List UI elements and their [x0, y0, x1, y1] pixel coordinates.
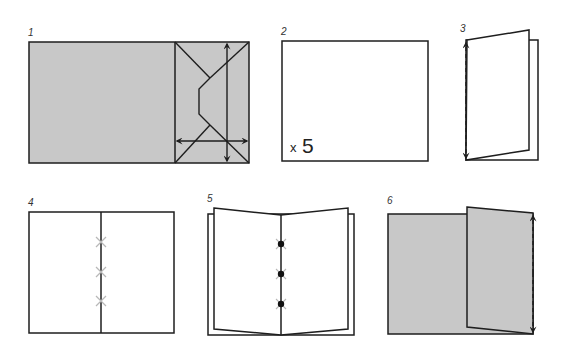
instruction-diagram: 1 2 x 5 3 4: [0, 0, 566, 354]
step-2-label: 2: [280, 26, 287, 37]
step-6-label: 6: [387, 195, 393, 206]
step-5: 5: [207, 193, 354, 335]
step-1-label: 1: [28, 27, 34, 38]
count-value: 5: [302, 134, 314, 157]
step-6: 6: [387, 195, 533, 334]
count-multiplier: x: [290, 140, 297, 155]
knot-dot-icon: [278, 241, 284, 247]
knot-dot-icon: [278, 301, 284, 307]
knot-dot-icon: [278, 271, 284, 277]
step-4: 4: [28, 197, 174, 333]
step-5-label: 5: [207, 193, 213, 204]
step-1: 1: [28, 27, 249, 163]
cover-flap: [467, 207, 533, 334]
step-4-label: 4: [28, 197, 34, 208]
step-2: 2 x 5: [280, 26, 428, 161]
front-page: [466, 30, 529, 160]
step-3: 3: [460, 23, 538, 160]
step-3-label: 3: [460, 23, 466, 34]
cover-sheet: [29, 42, 249, 163]
